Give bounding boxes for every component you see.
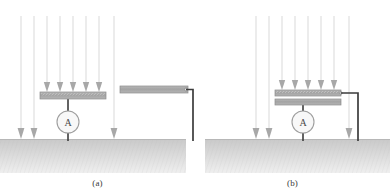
field-arrowhead [70, 82, 76, 92]
field-arrowhead [279, 80, 285, 90]
collector-plate-panel-a [40, 92, 106, 99]
field-arrowhead [31, 128, 38, 139]
auxiliary-plate-panel-a [120, 86, 188, 93]
diagram-canvas: A [0, 0, 390, 196]
field-arrowhead [57, 82, 63, 92]
field-arrowhead [18, 128, 25, 139]
field-arrowhead [318, 80, 324, 90]
lower-collector-plate-panel-b [275, 99, 341, 105]
field-arrowhead [111, 128, 118, 139]
ammeter-panel-a: A [57, 111, 79, 133]
field-arrowhead [96, 82, 102, 92]
ammeter-label: A [64, 117, 72, 128]
ground-wire-panel-a [186, 90, 193, 142]
ground-panel-b [205, 139, 390, 173]
field-arrowhead [253, 128, 260, 139]
field-arrowhead [305, 80, 311, 90]
panel-caption-a: (a) [0, 178, 195, 188]
field-arrowhead [331, 80, 337, 90]
ammeter-panel-b: A [292, 111, 314, 133]
field-arrowhead [44, 82, 50, 92]
upper-collector-plate-panel-b [275, 90, 342, 96]
ground-panel-a [0, 139, 186, 173]
figure-container: A [0, 0, 390, 196]
field-arrowhead [346, 128, 353, 139]
ammeter-label: A [299, 117, 307, 128]
field-arrowhead [266, 128, 273, 139]
field-arrowhead [83, 82, 89, 92]
panel-caption-b: (b) [195, 178, 390, 188]
field-arrowhead [292, 80, 298, 90]
